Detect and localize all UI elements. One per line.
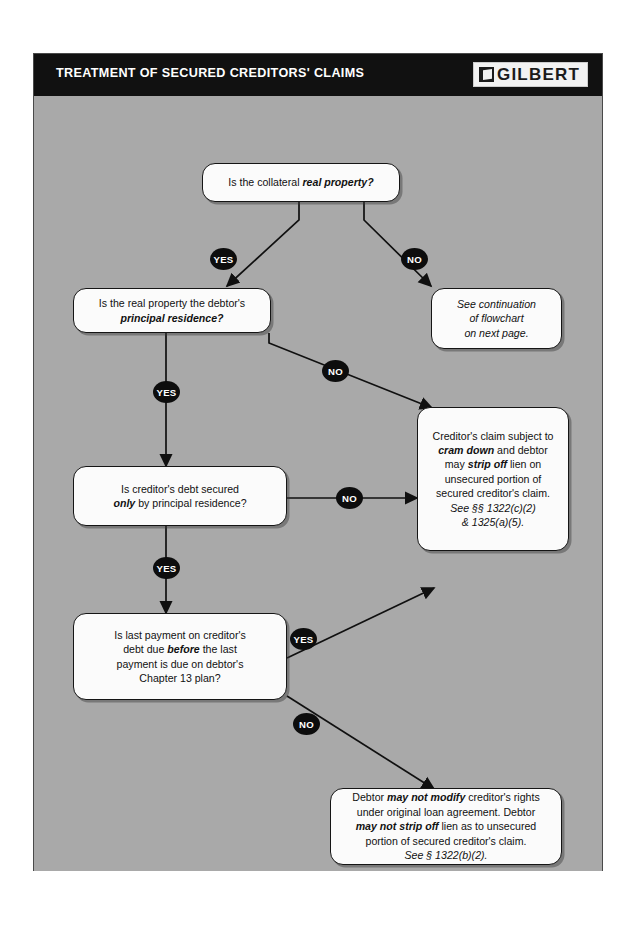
collateral-emphasis: real property?: [302, 176, 373, 188]
badge-collateral-yes: YES: [210, 248, 237, 270]
continuation-line3: on next page.: [464, 327, 528, 339]
page-title: TREATMENT OF SECURED CREDITORS' CLAIMS: [56, 66, 364, 80]
lastpayment-line2-rest: the last: [200, 643, 237, 655]
node-is-last-payment-before[interactable]: Is last payment on creditor's debt due b…: [73, 613, 287, 700]
cramdown-emphasis-2: strip off: [468, 458, 507, 470]
lastpayment-line4: Chapter 13 plan?: [139, 672, 220, 684]
badge-secured-no: NO: [336, 487, 363, 509]
node-cram-down-outcome[interactable]: Creditor's claim subject to cram down an…: [417, 407, 569, 551]
nomodify-citation: See § 1322(b)(2).: [404, 849, 487, 861]
flowchart-canvas: Is the collateral real property? YES NO …: [34, 96, 602, 871]
node-is-real-property-principal-residence[interactable]: Is the real property the debtor's princi…: [73, 288, 271, 333]
node-may-not-modify-outcome[interactable]: Debtor may not modify creditor's rights …: [330, 788, 562, 865]
nomodify-emphasis-1: may not modify: [387, 791, 465, 803]
logo-text: GILBERT: [497, 66, 580, 83]
residence-emphasis: principal residence?: [120, 312, 223, 324]
secured-line1: Is creditor's debt secured: [121, 483, 239, 495]
edge-residence-no: [269, 333, 432, 408]
edge-collateral-yes: [227, 202, 299, 286]
flowchart-page: TREATMENT OF SECURED CREDITORS' CLAIMS G…: [33, 53, 603, 871]
node-is-debt-secured-only[interactable]: Is creditor's debt secured only by princ…: [73, 466, 287, 526]
nomodify-line2: under original loan agreement. Debtor: [357, 806, 535, 818]
edge-collateral-no: [364, 202, 431, 286]
book-icon: [479, 67, 494, 82]
nomodify-line1-lead: Debtor: [352, 791, 387, 803]
residence-line1: Is the real property the debtor's: [99, 297, 245, 309]
lastpayment-line2-lead: debt due: [123, 643, 167, 655]
badge-lastpayment-yes: YES: [290, 628, 317, 650]
node-see-continuation[interactable]: See continuation of flowchart on next pa…: [431, 288, 562, 349]
cramdown-line4: unsecured portion of: [445, 473, 542, 485]
cramdown-citation-1: See §§ 1322(c)(2): [450, 502, 535, 514]
lastpayment-line1: Is last payment on creditor's: [114, 629, 246, 641]
node-is-collateral-real-property[interactable]: Is the collateral real property?: [202, 163, 400, 202]
cramdown-line3-rest: lien on: [507, 458, 541, 470]
gilbert-logo: GILBERT: [473, 62, 588, 87]
badge-secured-yes: YES: [153, 557, 180, 579]
badge-residence-yes: YES: [153, 381, 180, 403]
badge-collateral-no: NO: [401, 248, 428, 270]
continuation-line1: See continuation: [457, 298, 536, 310]
cramdown-line3-lead: may: [445, 458, 468, 470]
page-header: TREATMENT OF SECURED CREDITORS' CLAIMS G…: [34, 54, 602, 96]
nomodify-line3-rest: lien as to unsecured: [439, 820, 537, 832]
cramdown-line2-rest: and debtor: [494, 444, 548, 456]
cramdown-line1: Creditor's claim subject to: [433, 430, 554, 442]
badge-residence-no: NO: [322, 360, 349, 382]
badge-lastpayment-no: NO: [293, 713, 320, 735]
nomodify-emphasis-2: may not strip off: [356, 820, 439, 832]
lastpayment-line3: payment is due on debtor's: [117, 658, 244, 670]
cramdown-emphasis-1: cram down: [438, 444, 494, 456]
secured-emphasis: only: [113, 497, 135, 509]
cramdown-citation-2: & 1325(a)(5).: [462, 516, 524, 528]
lastpayment-emphasis: before: [167, 643, 199, 655]
nomodify-line4: portion of secured creditor's claim.: [365, 835, 526, 847]
collateral-lead: Is the collateral: [228, 176, 302, 188]
continuation-line2: of flowchart: [469, 312, 523, 324]
nomodify-line1-rest: creditor's rights: [465, 791, 539, 803]
secured-line2-rest: by principal residence?: [135, 497, 246, 509]
edge-lastpayment-no: [287, 696, 434, 789]
cramdown-line5: secured creditor's claim.: [436, 487, 550, 499]
